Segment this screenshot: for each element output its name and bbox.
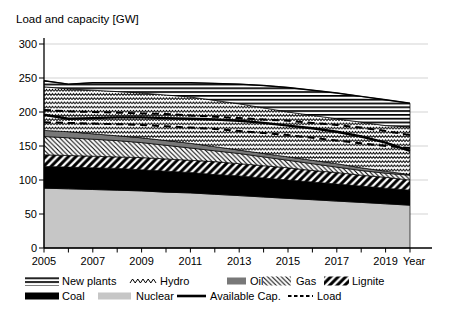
figure: Load and capacity [GW] 05010015020025030 (0, 0, 460, 318)
legend-key-coal (25, 293, 59, 300)
x-axis-label: Year (403, 255, 426, 267)
x-tick-label-2013: 2013 (227, 255, 251, 267)
x-tick-label-2017: 2017 (325, 255, 349, 267)
chart-title: Load and capacity [GW] (16, 13, 139, 25)
y-tick-label-250: 250 (19, 72, 37, 84)
legend-item-coal: Coal (25, 290, 85, 302)
legend-label-oil: Oil (250, 275, 263, 287)
y-tick-label-300: 300 (19, 38, 37, 50)
legend-item-new-plants: New plants (25, 275, 117, 287)
x-tick-label-2019: 2019 (373, 255, 397, 267)
stacked-areas (44, 81, 410, 248)
legend-item-nuclear: Nuclear (98, 290, 174, 302)
legend-label-gas: Gas (296, 275, 317, 287)
legend-item-lignite: Lignite (324, 275, 384, 287)
y-tick-label-150: 150 (19, 140, 37, 152)
legend-item-available-cap-: Available Cap. (177, 290, 281, 302)
y-tick-label-50: 50 (25, 208, 37, 220)
legend-key-hydro (130, 279, 156, 283)
legend-label-load: Load (317, 290, 341, 302)
legend-label-coal: Coal (62, 290, 85, 302)
legend-item-hydro: Hydro (130, 275, 189, 287)
legend-key-new-plants (25, 277, 59, 286)
legend: New plantsHydroOilGasLigniteCoalNuclearA… (25, 275, 384, 302)
x-tick-label-2005: 2005 (32, 255, 56, 267)
legend-label-new-plants: New plants (62, 275, 117, 287)
legend-key-gas (263, 277, 291, 286)
legend-key-lignite (324, 277, 349, 286)
legend-label-lignite: Lignite (352, 275, 384, 287)
y-tick-label-200: 200 (19, 106, 37, 118)
legend-key-oil (227, 278, 246, 285)
y-tick-label-100: 100 (19, 174, 37, 186)
legend-key-nuclear (98, 293, 131, 300)
legend-label-available-cap-: Available Cap. (210, 290, 281, 302)
legend-label-nuclear: Nuclear (136, 290, 174, 302)
legend-item-gas: Gas (263, 275, 317, 287)
load-capacity-chart: 0501001502002503002005200720092011201320… (0, 0, 460, 318)
legend-item-oil: Oil (227, 275, 263, 287)
x-tick-label-2009: 2009 (129, 255, 153, 267)
legend-label-hydro: Hydro (160, 275, 189, 287)
x-tick-label-2015: 2015 (276, 255, 300, 267)
y-tick-label-0: 0 (31, 242, 37, 254)
x-tick-label-2007: 2007 (81, 255, 105, 267)
x-tick-label-2011: 2011 (179, 255, 203, 267)
legend-item-load: Load (288, 290, 341, 302)
